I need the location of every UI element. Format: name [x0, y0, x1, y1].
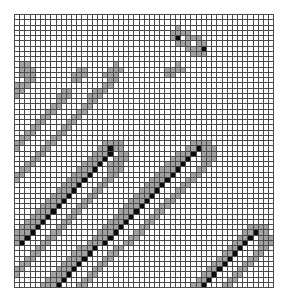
figure-canvas [0, 0, 288, 300]
cell-grid [14, 14, 274, 288]
grid-cell [269, 282, 274, 287]
grid-plot-area [14, 14, 274, 287]
grid-row [15, 282, 274, 287]
grid-body [15, 15, 274, 288]
